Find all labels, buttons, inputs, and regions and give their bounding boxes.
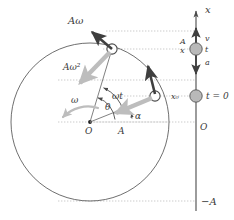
label-position: x [180, 46, 185, 55]
label-x-axis: x [205, 4, 211, 15]
label-acceleration: a [205, 58, 210, 67]
label-axis-origin: O [200, 122, 208, 132]
diagram-canvas: Aω Aω² ω ωt θ α O A x A x v t a x₀ t = 0… [0, 0, 234, 220]
label-velocity: v [205, 34, 210, 43]
label-velocity-magnitude: Aω [67, 15, 83, 26]
label-angular-velocity: ω [71, 95, 79, 105]
velocity-vector-upper [92, 32, 112, 49]
label-time: t [205, 45, 209, 54]
label-negative-amplitude: −A [201, 196, 217, 207]
acceleration-vector-upper [80, 52, 110, 83]
guide-lines [58, 31, 196, 201]
label-circle-radius: A [117, 126, 125, 136]
label-theta: θ [105, 102, 111, 112]
label-alpha: α [135, 111, 141, 121]
label-initial-time: t = 0 [206, 91, 229, 101]
label-amplitude: A [179, 37, 186, 46]
label-omega-t: ωt [112, 91, 123, 101]
angle-arc-alpha [131, 114, 132, 119]
label-initial-position: x₀ [171, 92, 180, 101]
axis-ball-time-t [190, 43, 202, 55]
axis-ball-time-zero [190, 90, 202, 102]
label-circle-origin: O [85, 126, 93, 136]
label-acceleration-magnitude: Aω² [62, 62, 81, 72]
physics-diagram-figure: Aω Aω² ω ωt θ α O A x A x v t a x₀ t = 0… [0, 0, 234, 220]
